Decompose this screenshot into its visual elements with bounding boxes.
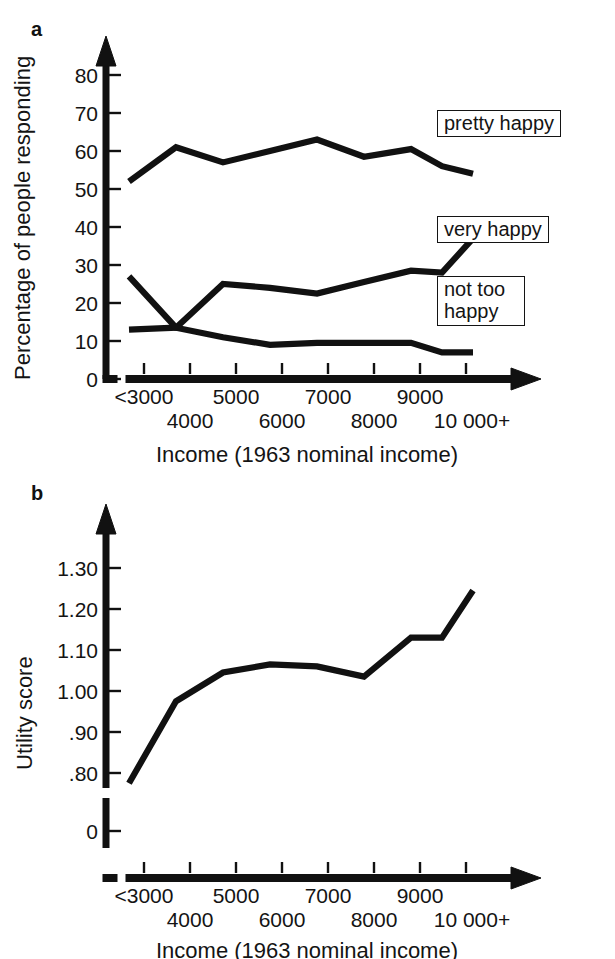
- panel-b-xtick-lt3000: <3000: [115, 884, 174, 907]
- panel-a-xtick-8000: 8000: [351, 409, 398, 432]
- panel-a: a 0 10 20: [0, 0, 615, 478]
- series-pretty-happy: [129, 140, 473, 182]
- panel-a-ytick-40: 40: [75, 216, 98, 239]
- panel-b-y-axis: [96, 504, 116, 848]
- panel-b-y-tick-labels: 1.30 1.20 1.10 1.00 .90 .80 0: [57, 557, 98, 843]
- panel-b-xtick-4000: 4000: [167, 908, 214, 931]
- panel-a-y-axis: [96, 36, 116, 379]
- panel-a-xtick-6000: 6000: [259, 409, 306, 432]
- panel-a-ytick-70: 70: [75, 102, 98, 125]
- panel-a-ytick-80: 80: [75, 64, 98, 87]
- panel-a-ytick-30: 30: [75, 254, 98, 277]
- panel-b-ytick-100: 1.00: [57, 680, 98, 703]
- series-not-too-happy: [129, 276, 473, 352]
- panel-b-ytick-120: 1.20: [57, 598, 98, 621]
- panel-a-xtick-4000: 4000: [167, 409, 214, 432]
- panel-b-plot: 1.30 1.20 1.10 1.00 .90 .80 0: [0, 470, 615, 959]
- panel-a-ytick-20: 20: [75, 292, 98, 315]
- panel-a-xtick-9000: 9000: [397, 385, 444, 408]
- legend-label-not-too-happy: not too happy: [437, 276, 525, 326]
- panel-b-ytick-090: .90: [69, 721, 98, 744]
- panel-a-ytick-10: 10: [75, 330, 98, 353]
- panel-b: b 1.30 1.20 1.10: [0, 470, 615, 959]
- panel-a-ytick-0: 0: [86, 368, 98, 391]
- panel-b-y-axis-label: Utility score: [12, 656, 37, 770]
- panel-b-ytick-110: 1.10: [57, 639, 98, 662]
- panel-a-ytick-60: 60: [75, 140, 98, 163]
- panel-a-ytick-50: 50: [75, 178, 98, 201]
- panel-b-x-ticks: [144, 862, 466, 873]
- panel-b-xtick-7000: 7000: [305, 884, 352, 907]
- panel-b-series-group: [129, 591, 473, 784]
- panel-a-y-tick-labels: 0 10 20 30 40 50 60 70 80: [75, 64, 98, 391]
- panel-a-xtick-10000plus: 10 000+: [434, 409, 511, 432]
- figure-container: a 0 10 20: [0, 0, 615, 959]
- panel-b-ytick-0: 0: [86, 820, 98, 843]
- series-very-happy: [129, 238, 473, 329]
- panel-b-xtick-10000plus: 10 000+: [434, 908, 511, 931]
- panel-b-xtick-5000: 5000: [213, 884, 260, 907]
- panel-b-x-axis-label: Income (1963 nominal income): [156, 938, 458, 959]
- panel-a-xtick-lt3000: <3000: [115, 385, 174, 408]
- legend-label-pretty-happy: pretty happy: [437, 110, 561, 137]
- panel-b-ytick-080: .80: [69, 762, 98, 785]
- panel-a-y-axis-label: Percentage of people responding: [10, 56, 35, 380]
- panel-a-xtick-7000: 7000: [305, 385, 352, 408]
- panel-a-xtick-5000: 5000: [213, 385, 260, 408]
- panel-a-series-group: [129, 140, 473, 353]
- series-utility-score: [129, 591, 473, 784]
- panel-a-x-tick-labels: <3000 5000 7000 9000 4000 6000 8000 10 0…: [115, 385, 511, 432]
- panel-b-x-tick-labels: <3000 5000 7000 9000 4000 6000 8000 10 0…: [115, 884, 511, 931]
- panel-b-ytick-130: 1.30: [57, 557, 98, 580]
- panel-b-xtick-6000: 6000: [259, 908, 306, 931]
- panel-b-xtick-9000: 9000: [397, 884, 444, 907]
- panel-a-x-axis-label: Income (1963 nominal income): [156, 442, 458, 467]
- legend-label-very-happy: very happy: [437, 216, 549, 243]
- panel-b-y-ticks: [109, 568, 121, 831]
- panel-a-x-ticks: [144, 363, 466, 374]
- panel-a-y-ticks: [109, 75, 121, 379]
- panel-b-xtick-8000: 8000: [351, 908, 398, 931]
